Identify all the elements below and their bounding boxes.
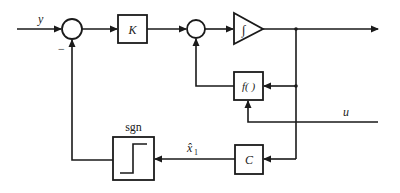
integrator-block [234,13,263,44]
gain-k-label: K [127,23,137,37]
estimate-x1-subscript: 1 [194,148,198,157]
estimate-x1-label: x̂ [186,141,193,155]
block-diagram: y − K ∫ f( ) u C x̂ 1 sgn [0,0,400,193]
input-y-label: y [37,12,44,26]
f-to-sum2-line [196,39,234,86]
sgn-feedback-line [72,40,113,160]
u-input-line [248,101,378,122]
summing-junction-2 [187,20,205,38]
input-u-label: u [343,105,349,119]
summing-junction-1 [62,19,82,39]
nonlinear-f-label: f( ) [242,80,255,93]
output-c-label: C [245,153,254,167]
sgn-label: sgn [125,120,142,134]
minus-sign: − [58,42,65,56]
